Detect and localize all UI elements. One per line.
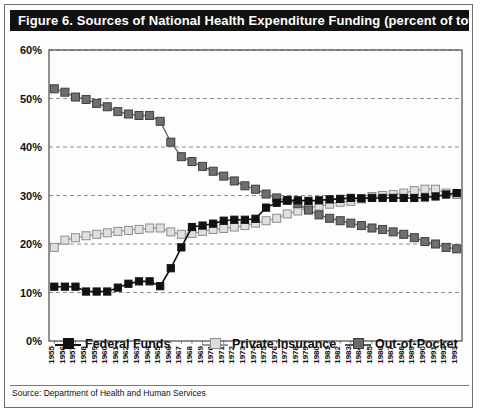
y-axis-tick-label: 40% xyxy=(20,141,42,153)
data-point-marker xyxy=(315,211,323,219)
data-point-marker xyxy=(135,278,142,285)
data-point-marker xyxy=(262,204,269,211)
data-point-marker xyxy=(252,215,259,222)
data-point-marker xyxy=(199,162,207,170)
data-point-marker xyxy=(379,225,387,233)
data-point-marker xyxy=(368,224,376,232)
data-point-marker xyxy=(220,217,227,224)
data-point-marker xyxy=(284,197,291,204)
data-point-marker xyxy=(188,158,196,166)
data-point-marker xyxy=(410,187,418,195)
data-point-marker xyxy=(50,243,58,251)
data-point-marker xyxy=(104,288,111,295)
data-point-marker xyxy=(71,234,79,242)
data-point-marker xyxy=(442,243,450,251)
data-point-marker xyxy=(82,95,90,103)
data-point-marker xyxy=(135,111,143,119)
data-point-marker xyxy=(114,108,122,116)
data-point-marker xyxy=(167,228,175,236)
data-point-marker xyxy=(220,224,228,232)
data-point-marker xyxy=(157,283,164,290)
data-point-marker xyxy=(71,93,79,101)
legend-marker-icon xyxy=(210,338,221,349)
data-point-marker xyxy=(389,228,397,236)
data-point-marker xyxy=(135,225,143,233)
data-point-marker xyxy=(315,197,322,204)
data-point-marker xyxy=(50,85,58,93)
legend-marker-icon xyxy=(63,338,74,349)
data-point-marker xyxy=(411,194,418,201)
data-point-marker xyxy=(230,177,238,185)
legend-label-federal-funds: Federal Funds xyxy=(85,337,170,351)
data-point-marker xyxy=(357,222,365,230)
data-point-marker xyxy=(432,185,440,193)
data-point-marker xyxy=(273,199,280,206)
data-point-marker xyxy=(347,194,354,201)
data-point-marker xyxy=(177,153,185,161)
data-point-marker xyxy=(156,224,164,232)
y-axis-tick-label: 20% xyxy=(20,238,42,250)
y-axis-tick-label: 30% xyxy=(20,190,42,202)
legend-label-private-insurance: Private Insurance xyxy=(232,337,336,351)
data-point-marker xyxy=(241,182,249,190)
data-point-marker xyxy=(188,223,195,230)
data-point-marker xyxy=(72,283,79,290)
data-point-marker xyxy=(453,245,461,253)
data-point-marker xyxy=(432,193,439,200)
data-point-marker xyxy=(336,217,344,225)
data-point-marker xyxy=(82,232,90,240)
data-point-marker xyxy=(379,194,386,201)
data-point-marker xyxy=(421,238,429,246)
data-point-marker xyxy=(199,222,206,229)
data-point-marker xyxy=(93,230,101,238)
data-point-marker xyxy=(114,227,122,235)
data-point-marker xyxy=(347,219,355,227)
y-axis-tick-label: 50% xyxy=(20,93,42,105)
data-point-marker xyxy=(337,195,344,202)
data-point-marker xyxy=(146,111,154,119)
data-point-marker xyxy=(443,191,450,198)
data-point-marker xyxy=(421,194,428,201)
data-point-marker xyxy=(326,214,334,222)
data-point-marker xyxy=(124,110,132,118)
y-axis-tick-label: 60% xyxy=(20,44,42,56)
data-point-marker xyxy=(432,240,440,248)
data-point-marker xyxy=(103,103,111,111)
data-point-marker xyxy=(156,117,164,125)
data-point-marker xyxy=(273,214,281,222)
data-point-marker xyxy=(167,265,174,272)
data-point-marker xyxy=(51,283,58,290)
data-point-marker xyxy=(230,223,238,231)
data-point-marker xyxy=(453,189,460,196)
legend-marker-icon xyxy=(353,338,364,349)
data-point-marker xyxy=(326,196,333,203)
y-axis-tick-label: 10% xyxy=(20,287,42,299)
data-point-marker xyxy=(220,172,228,180)
chart-legend: Federal Funds Private Insurance Out-of-P… xyxy=(5,334,474,358)
figure-panel: Figure 6. Sources of National Health Exp… xyxy=(4,4,473,408)
data-point-marker xyxy=(231,216,238,223)
data-point-marker xyxy=(125,280,132,287)
data-point-marker xyxy=(210,220,217,227)
data-point-marker xyxy=(294,197,301,204)
data-point-marker xyxy=(61,88,69,96)
data-point-marker xyxy=(304,206,312,214)
data-point-marker xyxy=(124,226,132,234)
source-divider xyxy=(10,385,469,386)
data-point-marker xyxy=(103,229,111,237)
series-out-of-pocket xyxy=(50,85,460,253)
source-note: Source: Department of Health and Human S… xyxy=(12,388,206,398)
data-point-marker xyxy=(178,244,185,251)
series-federal-funds xyxy=(51,189,461,295)
data-point-marker xyxy=(61,283,68,290)
data-point-marker xyxy=(400,230,408,238)
data-point-marker xyxy=(93,99,101,107)
data-point-marker xyxy=(390,194,397,201)
data-point-marker xyxy=(146,278,153,285)
data-point-marker xyxy=(61,236,69,244)
data-point-marker xyxy=(209,167,217,175)
data-point-marker xyxy=(167,138,175,146)
data-point-marker xyxy=(241,216,248,223)
data-point-marker xyxy=(252,185,260,193)
data-point-marker xyxy=(262,217,270,225)
